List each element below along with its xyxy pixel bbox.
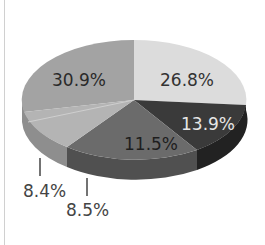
pie-chart-3d: 30.9% 26.8% 13.9% 11.5% 8.4% 8.5% (0, 0, 265, 245)
label-8-4: 8.4% (23, 181, 66, 201)
label-30-9: 30.9% (52, 70, 106, 90)
label-26-8: 26.8% (160, 70, 214, 90)
label-8-5: 8.5% (66, 200, 109, 220)
label-11-5: 11.5% (124, 134, 178, 154)
label-13-9: 13.9% (181, 114, 235, 134)
